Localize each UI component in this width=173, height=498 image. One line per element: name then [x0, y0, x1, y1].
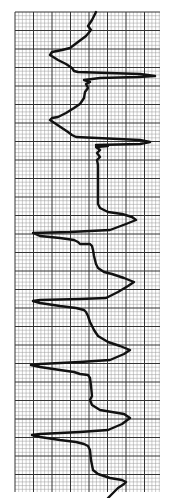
ecg-strip: [0, 0, 173, 498]
